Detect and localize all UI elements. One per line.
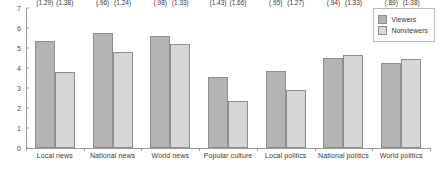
bar-value-label: 4.63(1.33) bbox=[345, 0, 362, 7]
x-axis-line bbox=[26, 148, 430, 149]
bar-pair: 3.56*(1.43)2.35(1.66) bbox=[208, 8, 248, 148]
bar-viewers-world-news[interactable]: 5.61(.98) bbox=[150, 36, 170, 148]
bar-groups: 5.34*(1.29)3.82(1.38)5.73*(.96)4.81(1.24… bbox=[26, 8, 430, 148]
y-axis-tick-4: 4 bbox=[17, 65, 21, 72]
legend-item-viewers: Viewers bbox=[378, 15, 428, 24]
y-axis-tick-3: 3 bbox=[17, 85, 21, 92]
y-axis-tick-mark bbox=[26, 68, 29, 69]
bar-sd-value: (1.29) bbox=[36, 0, 53, 7]
bar-value-label: 5.34*(1.29) bbox=[36, 0, 53, 7]
legend-label-viewers: Viewers bbox=[391, 16, 416, 23]
bar-viewers-national-politics[interactable]: 4.49(.94) bbox=[323, 58, 343, 148]
bar-viewers-local-politics[interactable]: 3.85*(.95) bbox=[266, 71, 286, 148]
bar-wrapper: 3.56*(1.43) bbox=[208, 8, 228, 148]
bar-pair: 3.85*(.95)2.88(1.27) bbox=[266, 8, 306, 148]
bar-viewers-local-news[interactable]: 5.34*(1.29) bbox=[35, 41, 55, 148]
bar-wrapper: 2.88(1.27) bbox=[286, 8, 306, 148]
bar-value-label: 2.88(1.27) bbox=[287, 0, 304, 7]
legend-item-nonviewers: Nonviewers bbox=[378, 26, 428, 35]
bar-value-label: 4.81(1.24) bbox=[114, 0, 131, 7]
bar-viewers-world-politics[interactable]: 4.27(.89) bbox=[381, 63, 401, 148]
x-axis-label-national-politics: National politics bbox=[315, 152, 373, 159]
bar-group: 5.34*(1.29)3.82(1.38) bbox=[26, 8, 84, 148]
bar-pair: 5.34*(1.29)3.82(1.38) bbox=[35, 8, 75, 148]
bar-pair: 4.49(.94)4.63(1.33) bbox=[323, 8, 363, 148]
y-axis-tick-labels: 01234567 bbox=[0, 8, 26, 148]
bar-wrapper: 5.34*(1.29) bbox=[35, 8, 55, 148]
y-axis-tick-mark bbox=[26, 108, 29, 109]
bar-group: 4.49(.94)4.63(1.33) bbox=[315, 8, 373, 148]
bar-nonviewers-national-politics[interactable]: 4.63(1.33) bbox=[343, 55, 363, 148]
legend-swatch-viewers-icon bbox=[378, 15, 387, 24]
y-axis-tick-1: 1 bbox=[17, 125, 21, 132]
bar-nonviewers-world-news[interactable]: 5.21(1.33) bbox=[170, 44, 190, 148]
bar-sd-value: (1.24) bbox=[114, 0, 131, 7]
bar-sd-value: (1.66) bbox=[230, 0, 247, 7]
y-axis-tick-mark bbox=[26, 48, 29, 49]
bar-value-label: 4.27(.89) bbox=[384, 0, 397, 7]
x-axis-tick-mark bbox=[430, 148, 431, 151]
bar-value-label: 4.49(.94) bbox=[327, 0, 340, 7]
x-axis-tick-mark bbox=[315, 148, 316, 151]
bar-viewers-national-news[interactable]: 5.73*(.96) bbox=[93, 33, 113, 148]
bar-group: 3.85*(.95)2.88(1.27) bbox=[257, 8, 315, 148]
bar-value-label: 4.46(1.38) bbox=[403, 0, 420, 7]
bar-sd-value: (1.27) bbox=[287, 0, 304, 7]
bar-value-label: 5.73*(.96) bbox=[95, 0, 110, 7]
bar-sd-value: (.94) bbox=[327, 0, 340, 7]
bar-wrapper: 5.21(1.33) bbox=[170, 8, 190, 148]
bar-wrapper: 3.82(1.38) bbox=[55, 8, 75, 148]
bar-sd-value: (1.33) bbox=[172, 0, 189, 7]
bar-pair: 5.61(.98)5.21(1.33) bbox=[150, 8, 190, 148]
x-axis-tick-mark bbox=[372, 148, 373, 151]
y-axis-tick-5: 5 bbox=[17, 45, 21, 52]
bar-group: 3.56*(1.43)2.35(1.66) bbox=[199, 8, 257, 148]
bar-value-label: 5.61(.98) bbox=[154, 0, 167, 7]
bar-sd-value: (1.38) bbox=[56, 0, 73, 7]
bar-nonviewers-world-politics[interactable]: 4.46(1.38) bbox=[401, 59, 421, 148]
bar-wrapper: 4.63(1.33) bbox=[343, 8, 363, 148]
bar-viewers-popular-culture[interactable]: 3.56*(1.43) bbox=[208, 77, 228, 148]
y-axis-tick-6: 6 bbox=[17, 25, 21, 32]
bar-wrapper: 3.85*(.95) bbox=[266, 8, 286, 148]
y-axis-tick-2: 2 bbox=[17, 105, 21, 112]
x-axis-tick-mark bbox=[199, 148, 200, 151]
x-axis-label-world-politics: World politics bbox=[372, 152, 430, 159]
x-axis-tick-mark bbox=[84, 148, 85, 151]
bar-sd-value: (1.43) bbox=[210, 0, 227, 7]
bar-value-label: 3.85*(.95) bbox=[268, 0, 283, 7]
bar-wrapper: 5.73*(.96) bbox=[93, 8, 113, 148]
y-axis-tick-mark bbox=[26, 88, 29, 89]
chart-legend: Viewers Nonviewers bbox=[373, 8, 435, 42]
bar-value-label: 5.21(1.33) bbox=[172, 0, 189, 7]
x-axis-label-popular-culture: Popular culture bbox=[199, 152, 257, 159]
x-axis-label-world-news: World news bbox=[141, 152, 199, 159]
bar-nonviewers-popular-culture[interactable]: 2.35(1.66) bbox=[228, 101, 248, 148]
bar-value-label: 3.56*(1.43) bbox=[210, 0, 227, 7]
bar-nonviewers-local-news[interactable]: 3.82(1.38) bbox=[55, 72, 75, 148]
bar-nonviewers-national-news[interactable]: 4.81(1.24) bbox=[113, 52, 133, 148]
x-axis-tick-mark bbox=[257, 148, 258, 151]
grouped-bar-chart: 01234567 5.34*(1.29)3.82(1.38)5.73*(.96)… bbox=[0, 0, 441, 184]
bar-sd-value: (.96) bbox=[95, 0, 110, 7]
y-axis-tick-0: 0 bbox=[17, 145, 21, 152]
bar-pair: 5.73*(.96)4.81(1.24) bbox=[93, 8, 133, 148]
y-axis-tick-mark bbox=[26, 8, 29, 9]
bar-value-label: 2.35(1.66) bbox=[230, 0, 247, 7]
bar-wrapper: 4.49(.94) bbox=[323, 8, 343, 148]
legend-label-nonviewers: Nonviewers bbox=[391, 27, 428, 34]
x-axis-label-local-politics: Local politics bbox=[257, 152, 315, 159]
x-axis-label-national-news: National news bbox=[84, 152, 142, 159]
bar-nonviewers-local-politics[interactable]: 2.88(1.27) bbox=[286, 90, 306, 148]
legend-swatch-nonviewers-icon bbox=[378, 26, 387, 35]
x-axis-tick-mark bbox=[141, 148, 142, 151]
y-axis-tick-7: 7 bbox=[17, 5, 21, 12]
bar-sd-value: (1.33) bbox=[345, 0, 362, 7]
x-axis-category-labels: Local newsNational newsWorld newsPopular… bbox=[26, 152, 430, 159]
bar-group: 5.61(.98)5.21(1.33) bbox=[141, 8, 199, 148]
bar-wrapper: 5.61(.98) bbox=[150, 8, 170, 148]
bar-group: 5.73*(.96)4.81(1.24) bbox=[84, 8, 142, 148]
y-axis-tick-mark bbox=[26, 128, 29, 129]
bar-sd-value: (.98) bbox=[154, 0, 167, 7]
bar-sd-value: (.95) bbox=[268, 0, 283, 7]
